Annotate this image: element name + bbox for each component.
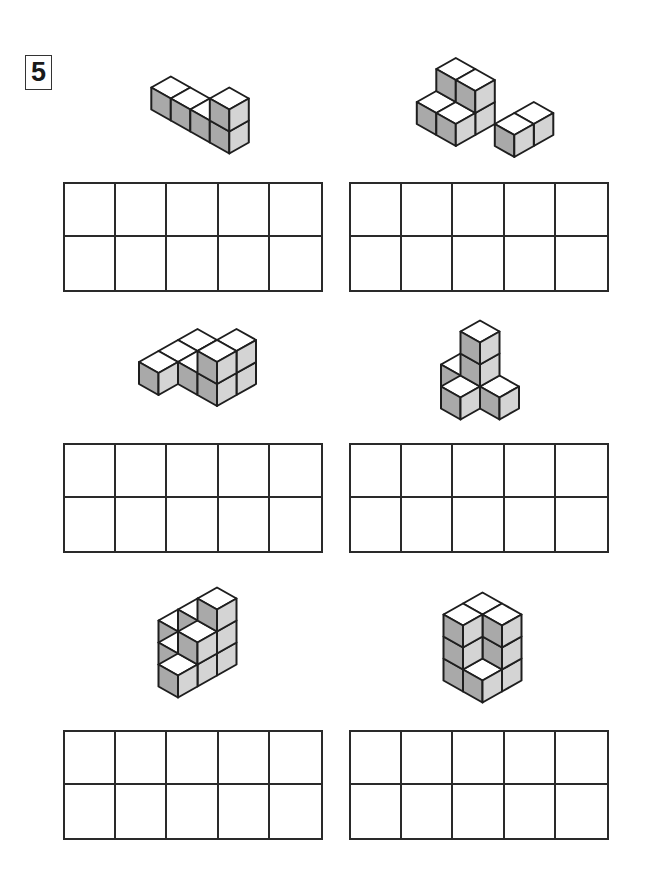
answer-cell[interactable] — [505, 498, 556, 551]
answer-cell[interactable] — [167, 445, 218, 498]
answer-cell[interactable] — [270, 184, 321, 237]
answer-cell[interactable] — [351, 237, 402, 290]
answer-cell[interactable] — [116, 237, 167, 290]
answer-cell[interactable] — [402, 498, 453, 551]
answer-cell[interactable] — [556, 237, 607, 290]
answer-cell[interactable] — [402, 237, 453, 290]
answer-cell[interactable] — [270, 445, 321, 498]
answer-cell[interactable] — [556, 785, 607, 838]
answer-cell[interactable] — [453, 184, 504, 237]
answer-cell[interactable] — [116, 498, 167, 551]
answer-cell[interactable] — [116, 785, 167, 838]
answer-cell[interactable] — [167, 785, 218, 838]
answer-cell[interactable] — [65, 498, 116, 551]
answer-cell[interactable] — [270, 498, 321, 551]
answer-cell[interactable] — [351, 184, 402, 237]
answer-cell[interactable] — [219, 184, 270, 237]
cube — [198, 340, 237, 384]
answer-cell[interactable] — [351, 445, 402, 498]
cube — [495, 113, 534, 157]
cube — [198, 588, 237, 632]
answer-grid-3 — [63, 443, 323, 553]
answer-cell[interactable] — [219, 785, 270, 838]
cube — [210, 88, 249, 132]
answer-cell[interactable] — [65, 237, 116, 290]
answer-cell[interactable] — [116, 732, 167, 785]
answer-cell[interactable] — [556, 445, 607, 498]
answer-grid-2 — [349, 182, 609, 292]
answer-cell[interactable] — [65, 445, 116, 498]
answer-cell[interactable] — [505, 785, 556, 838]
answer-cell[interactable] — [402, 445, 453, 498]
answer-cell[interactable] — [351, 498, 402, 551]
cube — [139, 351, 178, 395]
problem-number: 5 — [25, 55, 52, 90]
answer-cell[interactable] — [116, 184, 167, 237]
answer-cell[interactable] — [270, 732, 321, 785]
answer-cell[interactable] — [219, 445, 270, 498]
answer-cell[interactable] — [505, 732, 556, 785]
answer-cell[interactable] — [453, 732, 504, 785]
answer-cell[interactable] — [167, 732, 218, 785]
figure-3 — [110, 300, 285, 435]
answer-cell[interactable] — [556, 184, 607, 237]
cube — [444, 604, 483, 648]
answer-cell[interactable] — [219, 237, 270, 290]
answer-cell[interactable] — [453, 498, 504, 551]
answer-cell[interactable] — [167, 498, 218, 551]
answer-cell[interactable] — [453, 445, 504, 498]
figure-1 — [120, 60, 280, 170]
answer-cell[interactable] — [505, 184, 556, 237]
answer-cell[interactable] — [167, 237, 218, 290]
answer-cell[interactable] — [402, 732, 453, 785]
figure-2 — [400, 45, 570, 170]
answer-cell[interactable] — [351, 785, 402, 838]
answer-cell[interactable] — [219, 732, 270, 785]
cube — [456, 69, 495, 113]
answer-cell[interactable] — [65, 732, 116, 785]
answer-cell[interactable] — [167, 184, 218, 237]
answer-cell[interactable] — [270, 785, 321, 838]
cube — [483, 604, 522, 648]
answer-cell[interactable] — [219, 498, 270, 551]
answer-grid-1 — [63, 182, 323, 292]
answer-cell[interactable] — [351, 732, 402, 785]
answer-cell[interactable] — [65, 184, 116, 237]
answer-cell[interactable] — [65, 785, 116, 838]
answer-cell[interactable] — [116, 445, 167, 498]
answer-cell[interactable] — [453, 237, 504, 290]
answer-cell[interactable] — [556, 732, 607, 785]
answer-grid-5 — [63, 730, 323, 840]
answer-cell[interactable] — [556, 498, 607, 551]
answer-cell[interactable] — [505, 237, 556, 290]
answer-cell[interactable] — [270, 237, 321, 290]
figure-5 — [115, 570, 280, 715]
answer-cell[interactable] — [402, 184, 453, 237]
figure-6 — [420, 575, 545, 720]
answer-cell[interactable] — [402, 785, 453, 838]
answer-grid-6 — [349, 730, 609, 840]
figure-4 — [415, 300, 545, 440]
answer-cell[interactable] — [505, 445, 556, 498]
answer-grid-4 — [349, 443, 609, 553]
answer-cell[interactable] — [453, 785, 504, 838]
cube — [461, 321, 500, 365]
